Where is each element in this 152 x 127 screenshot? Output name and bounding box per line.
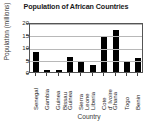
plot-area <box>29 23 143 73</box>
x-axis-tick-labels: SenegalGambiaGuineaBissauGuineaSierraLeo… <box>29 76 143 112</box>
gridline <box>30 24 142 25</box>
gridline <box>30 61 142 62</box>
bar <box>56 70 62 73</box>
x-tick-label: Cote <box>101 97 107 110</box>
bar-chart: Population of African Countries Populati… <box>0 0 152 127</box>
x-tick-label: Liberia <box>90 92 96 110</box>
x-tick-label: Ghana <box>112 92 118 110</box>
bar <box>101 37 107 72</box>
bar <box>67 57 73 72</box>
bar <box>90 65 96 73</box>
bar <box>78 61 84 72</box>
x-tick-label: Gambia <box>44 89 50 110</box>
gridline <box>30 49 142 50</box>
x-tick-label: Guinea <box>55 91 61 110</box>
bar <box>44 70 50 73</box>
x-tick-label: Togo <box>124 97 130 110</box>
x-tick-label: Guinea <box>67 91 73 110</box>
gridline <box>30 36 142 37</box>
x-tick-label: Benin <box>135 95 141 110</box>
bar <box>33 52 39 72</box>
bar <box>124 61 130 72</box>
y-axis: 05101520 <box>0 23 29 73</box>
x-tick-label: Senegal <box>33 88 39 110</box>
x-axis-title: Country <box>30 113 148 120</box>
chart-title: Population of African Countries <box>0 2 152 11</box>
